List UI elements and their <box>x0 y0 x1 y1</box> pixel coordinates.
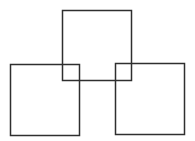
top-square <box>63 11 132 81</box>
left-square <box>11 65 80 136</box>
three-squares-diagram <box>0 0 195 141</box>
right-square <box>116 64 185 135</box>
